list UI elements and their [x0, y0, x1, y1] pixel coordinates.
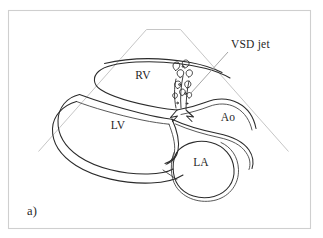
echo-schematic-figure: VSD jet RV LV LA Ao a) — [0, 0, 323, 238]
label-ao: Ao — [221, 111, 236, 123]
interventricular-septum-lv-side — [80, 95, 173, 120]
vsd-jet-flow — [173, 60, 193, 110]
label-rv: RV — [135, 69, 151, 81]
rv-free-wall-outer — [105, 59, 223, 73]
panel-label: a) — [27, 204, 37, 218]
label-vsd-jet: VSD jet — [231, 38, 270, 51]
la-epicardium — [171, 143, 238, 202]
figure-canvas: VSD jet RV LV LA Ao a) — [0, 0, 323, 238]
la-endocardium — [173, 141, 234, 197]
aortic-root-posterior-wall-2 — [176, 124, 251, 170]
aortic-root-posterior-wall — [172, 119, 253, 168]
rv-free-wall-inner — [99, 62, 231, 78]
septal-defect-margins — [171, 110, 194, 122]
label-lv: LV — [111, 119, 126, 131]
label-la: LA — [193, 156, 209, 168]
